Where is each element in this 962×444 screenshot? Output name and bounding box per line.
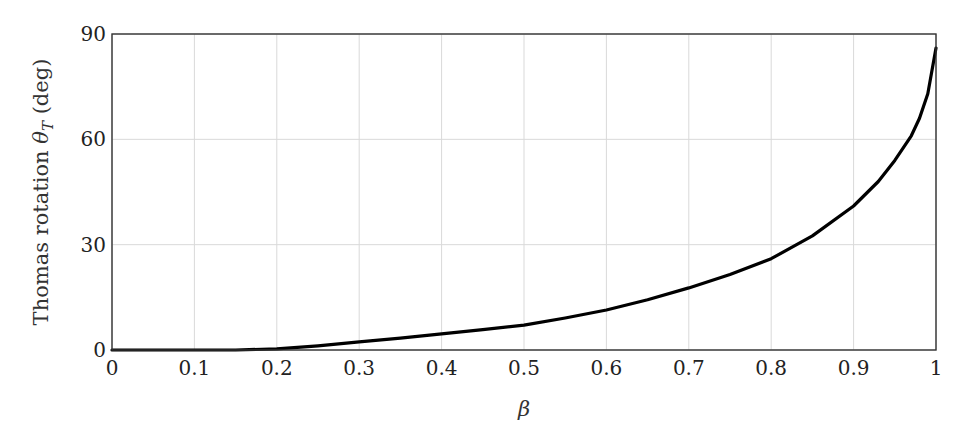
y-tick-label: 60: [81, 127, 106, 151]
x-tick-label: 0: [106, 356, 119, 380]
y-tick-label: 30: [81, 233, 106, 257]
y-tick-label: 90: [81, 22, 106, 46]
thomas-rotation-chart: 00.10.20.30.40.50.60.70.80.91 0306090 β …: [0, 0, 962, 444]
x-axis-label: β: [517, 397, 530, 421]
x-tick-label: 0.7: [673, 356, 705, 380]
y-axis-label: Thomas rotation θT (deg): [29, 59, 57, 326]
grid-lines: [112, 34, 936, 350]
x-tick-label: 0.6: [590, 356, 622, 380]
y-axis-label-suffix: (deg): [29, 59, 53, 121]
y-axis-ticks: 0306090: [81, 22, 106, 362]
x-tick-label: 0.3: [343, 356, 375, 380]
x-axis-ticks: 00.10.20.30.40.50.60.70.80.91: [106, 356, 943, 380]
x-tick-label: 0.5: [508, 356, 540, 380]
x-tick-label: 0.9: [838, 356, 870, 380]
y-axis-label-symbol: θ: [29, 131, 53, 144]
x-tick-label: 0.2: [261, 356, 293, 380]
x-tick-label: 0.8: [755, 356, 787, 380]
x-tick-label: 0.1: [178, 356, 210, 380]
x-tick-label: 1: [930, 356, 943, 380]
x-tick-label: 0.4: [426, 356, 458, 380]
y-axis-label-prefix: Thomas rotation: [29, 144, 53, 326]
y-tick-label: 0: [93, 338, 106, 362]
